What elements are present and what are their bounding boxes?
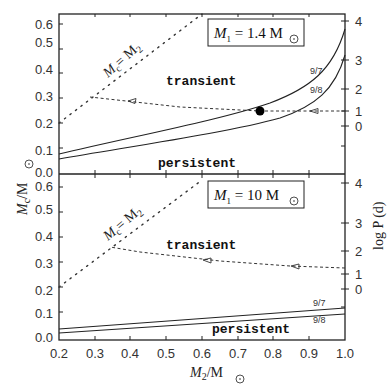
arrow-left-icon	[203, 258, 211, 263]
svg-text:0.3: 0.3	[35, 256, 53, 271]
lower-panel: Mc= M2 9/7 9/8 transient persistent M1 =…	[59, 180, 345, 337]
svg-text:0.3: 0.3	[35, 89, 53, 104]
evolution-track-upper	[90, 97, 345, 111]
svg-text:3: 3	[355, 53, 362, 68]
curve-9-7-lower	[59, 308, 345, 329]
svg-text:0.5: 0.5	[35, 202, 53, 217]
svg-text:0.0: 0.0	[35, 165, 53, 180]
y-axis-title: Mc/M	[15, 160, 33, 216]
svg-text:1: 1	[355, 267, 362, 282]
svg-text:0.4: 0.4	[35, 62, 53, 77]
y-tick-labels-lower: 0.6 0.5 0.4 0.3 0.2 0.1 0.0	[35, 179, 53, 345]
svg-text:log P (d): log P (d)	[371, 201, 387, 250]
svg-text:0: 0	[355, 119, 362, 134]
svg-text:1: 1	[355, 104, 362, 119]
right-tick-labels-lower: 4 3 2 1 0	[355, 176, 362, 297]
svg-text:0.4: 0.4	[35, 229, 53, 244]
mc-equals-m2-line	[59, 180, 202, 287]
region-transient: transient	[166, 74, 236, 89]
region-transient: transient	[166, 238, 236, 253]
svg-text:0.1: 0.1	[35, 143, 53, 158]
ratio-label-9-7: 9/7	[310, 66, 323, 76]
diag-label-lower: Mc= M2	[100, 203, 146, 246]
svg-text:0.1: 0.1	[35, 306, 53, 321]
svg-text:0.9: 0.9	[300, 346, 318, 361]
svg-text:1.0: 1.0	[336, 346, 354, 361]
region-persistent: persistent	[212, 322, 290, 337]
current-position-marker	[256, 107, 265, 116]
x-axis-title: M2/M	[189, 365, 244, 383]
diag-label-upper: Mc= M2	[99, 39, 145, 82]
svg-text:4: 4	[355, 14, 362, 29]
y-tick-labels-upper: 0.6 0.5 0.4 0.3 0.2 0.1 0.0	[35, 17, 53, 180]
svg-text:4: 4	[355, 176, 362, 191]
legend-lower: M1 = 10 M	[208, 181, 304, 208]
svg-text:Mc/M: Mc/M	[15, 182, 32, 216]
arrow-left-icon	[128, 99, 136, 104]
svg-text:0.5: 0.5	[35, 35, 53, 50]
ratio-label-9-7: 9/7	[313, 298, 326, 308]
svg-text:0.7: 0.7	[229, 346, 247, 361]
svg-text:0.2: 0.2	[35, 283, 53, 298]
svg-text:2: 2	[355, 244, 362, 259]
svg-text:0.2: 0.2	[50, 346, 68, 361]
svg-text:0.3: 0.3	[86, 346, 104, 361]
x-tick-labels: 0.2 0.3 0.4 0.5 0.6 0.7 0.8 0.9 1.0	[50, 346, 354, 361]
svg-text:0.8: 0.8	[264, 346, 282, 361]
right-axis-title: log P (d)	[371, 201, 387, 250]
region-persistent: persistent	[158, 156, 236, 171]
curve-9-8-lower	[59, 314, 345, 333]
mc-equals-m2-line	[59, 14, 202, 123]
svg-text:0.6: 0.6	[193, 346, 211, 361]
ratio-label-9-8: 9/8	[313, 315, 326, 325]
svg-text:2: 2	[355, 82, 362, 97]
figure: 0.6 0.5 0.4 0.3 0.2 0.1 0.0 0.6 0.5 0.4 …	[0, 0, 390, 385]
upper-panel: Mc= M2 9/7 9/8 transient persistent M1 =…	[59, 14, 345, 171]
svg-text:0.6: 0.6	[35, 179, 53, 194]
svg-text:0.0: 0.0	[35, 330, 53, 345]
svg-text:0.5: 0.5	[157, 346, 175, 361]
svg-text:3: 3	[355, 216, 362, 231]
svg-text:0.6: 0.6	[35, 17, 53, 32]
ratio-label-9-8: 9/8	[310, 85, 323, 95]
legend-upper: M1 = 1.4 M	[208, 19, 304, 46]
right-tick-labels-upper: 4 3 2 1 0	[355, 14, 362, 134]
svg-text:M2/M: M2/M	[189, 365, 224, 382]
svg-text:0.4: 0.4	[121, 346, 139, 361]
svg-text:0.2: 0.2	[35, 116, 53, 131]
svg-text:0: 0	[355, 282, 362, 297]
